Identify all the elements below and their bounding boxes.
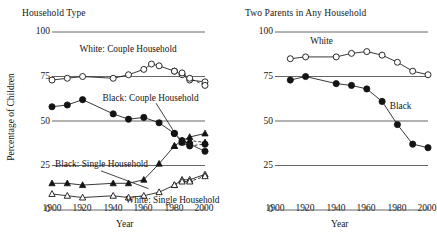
- series-annotation: Black: Single Household: [55, 159, 148, 169]
- data-point: [110, 192, 116, 198]
- data-point: [364, 86, 370, 92]
- series-annotation: White: Couple Household: [80, 44, 177, 54]
- data-point: [202, 148, 208, 154]
- data-point: [156, 120, 162, 126]
- data-point: [148, 61, 154, 67]
- series-annotation: White: Single Household: [125, 195, 219, 205]
- data-point: [333, 54, 339, 60]
- data-point: [141, 66, 147, 72]
- data-point: [287, 56, 293, 62]
- data-point: [49, 191, 55, 197]
- figure-container: Household Type Percentage of Children Ye…: [0, 0, 437, 242]
- data-point: [80, 97, 86, 103]
- data-point: [187, 143, 193, 149]
- series-line-0: [290, 52, 428, 75]
- data-point: [348, 82, 354, 88]
- data-point: [364, 49, 370, 55]
- data-point: [171, 143, 177, 149]
- data-point: [303, 54, 309, 60]
- data-point: [379, 98, 385, 104]
- annotation-leader: [101, 171, 148, 189]
- data-point: [202, 82, 208, 88]
- data-point: [394, 121, 400, 127]
- data-point: [156, 63, 162, 69]
- data-point: [287, 77, 293, 83]
- data-point: [171, 182, 177, 188]
- series-annotation: Black: Couple Household: [102, 93, 198, 103]
- data-point: [394, 59, 400, 65]
- data-point: [171, 68, 177, 74]
- data-point: [64, 75, 70, 81]
- data-point: [49, 77, 55, 83]
- data-point: [425, 72, 431, 78]
- data-point: [349, 50, 355, 56]
- data-point: [171, 130, 177, 136]
- data-point: [126, 72, 132, 78]
- data-point: [80, 74, 86, 80]
- plot-area-left: White: Couple HouseholdBlack: Couple Hou…: [0, 0, 220, 242]
- data-point: [410, 141, 416, 147]
- data-point: [333, 81, 339, 87]
- chart-panel-household-type: Household Type Percentage of Children Ye…: [0, 0, 220, 242]
- series-line-1: [290, 77, 428, 148]
- data-point: [110, 75, 116, 81]
- data-point: [110, 111, 116, 117]
- data-point: [141, 114, 147, 120]
- plot-area-right: WhiteBlack: [217, 0, 437, 242]
- data-point: [410, 68, 416, 74]
- data-point: [202, 130, 208, 136]
- series-annotation: Black: [390, 101, 412, 111]
- data-point: [156, 189, 162, 195]
- data-point: [179, 70, 185, 76]
- data-point: [125, 116, 131, 122]
- chart-panel-two-parents: Two Parents in Any Household Year 100 75…: [217, 0, 437, 242]
- data-point: [379, 52, 385, 58]
- data-point: [187, 75, 193, 81]
- data-point: [49, 104, 55, 110]
- data-point: [64, 102, 70, 108]
- data-point: [303, 73, 309, 79]
- series-annotation: White: [310, 36, 333, 46]
- data-point: [425, 145, 431, 151]
